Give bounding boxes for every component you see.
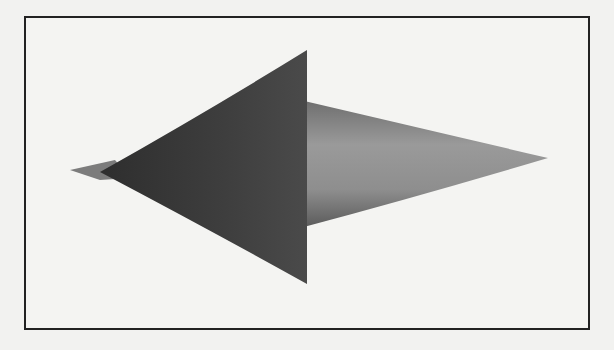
dark-cone: [100, 50, 307, 284]
arrow-3d-icon: [0, 0, 614, 350]
figure-canvas: [0, 0, 614, 350]
light-cone: [300, 100, 548, 228]
